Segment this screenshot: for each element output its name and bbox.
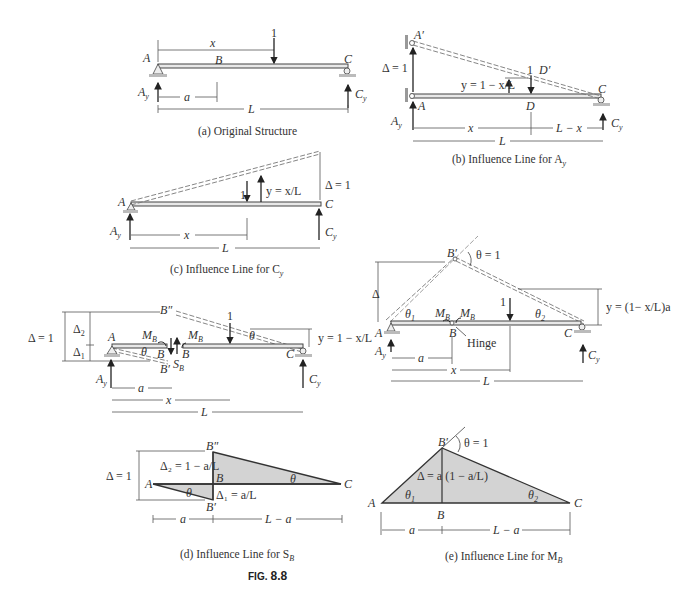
label-a: a xyxy=(418,351,424,365)
caption-a: (a) Original Structure xyxy=(198,125,297,138)
panel-d-influence-line-sb: Δ = 1 B″ Δ₂ = 1 − a/L A θ B Δ₁ = a/L θ C… xyxy=(106,439,353,563)
label-x: x xyxy=(450,363,457,377)
beam xyxy=(411,94,601,98)
label-x: x xyxy=(209,36,216,50)
label-y-expr: y = x/L xyxy=(266,184,301,198)
label-A: A xyxy=(144,477,153,491)
label-delta2-expr: Δ₂ = 1 − a/L xyxy=(160,459,219,473)
label-Ay: Ay xyxy=(374,344,386,360)
label-Ay: Ay xyxy=(95,372,107,388)
label-D: D xyxy=(525,99,535,113)
label-A: A xyxy=(142,51,151,65)
caption-c: (c) Influence Line for Cy xyxy=(170,263,284,278)
label-C: C xyxy=(598,82,607,96)
label-L: L xyxy=(498,134,506,148)
label-y-expr: y = 1 − x/L xyxy=(461,78,515,92)
label-A: A xyxy=(417,99,426,113)
figure-label: FIG.8.8 xyxy=(248,569,287,583)
label-A-prime: A′ xyxy=(413,28,424,42)
label-a: a xyxy=(138,381,144,395)
label-L-minus-a: L − a xyxy=(264,512,292,526)
caption-b: (b) Influence Line for Ay xyxy=(452,153,566,168)
label-C: C xyxy=(344,52,353,66)
label-A: A xyxy=(107,330,116,344)
label-B-prime: B′ xyxy=(438,435,448,449)
figure-8-8: x 1 A B C Ay Cy a L (a) Original Structu… xyxy=(0,0,694,592)
label-delta: Δ xyxy=(372,287,380,301)
panel-e-structure-moment: Δ B′ θ = 1 θ1 MB MB 1 θ2 y = (1− x/L)a A… xyxy=(372,236,671,388)
label-theta: θ = 1 xyxy=(464,436,489,450)
label-L: L xyxy=(247,102,255,116)
load-label: 1 xyxy=(271,26,277,40)
label-Ay: Ay xyxy=(390,114,402,130)
label-Cy: Cy xyxy=(309,372,321,388)
fixed-support-a-icon xyxy=(405,88,408,102)
label-delta: Δ = 1 xyxy=(106,469,132,483)
label-delta-expr: Δ = a (1 − a/L) xyxy=(417,469,488,483)
label-MB-left: MB xyxy=(141,328,157,344)
label-Cy: Cy xyxy=(355,87,367,103)
panel-b-influence-line-ay: A′ Δ = 1 y = 1 − x/L 1 D′ A D C Ay Cy x … xyxy=(382,28,623,168)
panel-a-original-structure: x 1 A B C Ay Cy a L (a) Original Structu… xyxy=(137,26,367,138)
beam xyxy=(391,321,581,325)
panel-e-influence-line-mb: B′ θ = 1 Δ = a (1 − a/L) A θ1 θ2 B C a L… xyxy=(367,427,583,565)
label-Cy: Cy xyxy=(325,225,337,241)
label-delta: Δ = 1 xyxy=(382,61,408,75)
load-label: 1 xyxy=(500,295,506,309)
label-B-prime: B′ xyxy=(447,246,457,260)
negative-region xyxy=(153,484,213,500)
label-Cy: Cy xyxy=(611,116,623,132)
label-C: C xyxy=(325,197,334,211)
label-C: C xyxy=(574,496,583,510)
label-a: a xyxy=(184,90,190,104)
label-A: A xyxy=(367,496,376,510)
label-C: C xyxy=(344,477,353,491)
label-L: L xyxy=(200,405,208,419)
label-MB-right: MB xyxy=(187,328,203,344)
label-L-minus-x: L − x xyxy=(555,121,583,135)
label-L: L xyxy=(221,241,229,255)
label-hinge: Hinge xyxy=(467,336,496,350)
label-A: A xyxy=(117,195,126,209)
label-B-prime: B′ xyxy=(160,362,170,376)
label-C: C xyxy=(286,347,295,361)
label-delta2: Δ2 xyxy=(73,322,85,338)
load-label: 1 xyxy=(227,309,233,323)
label-B: B xyxy=(437,508,445,522)
label-y-expr: y = 1 − x/L xyxy=(318,331,372,345)
label-theta-left: θ xyxy=(141,345,147,359)
label-B-double-prime: B″ xyxy=(160,303,173,317)
load-label: 1 xyxy=(240,188,246,202)
label-theta-right: θ xyxy=(249,329,255,343)
label-Ay: Ay xyxy=(109,224,121,240)
label-x: x xyxy=(183,228,190,242)
label-B-left: B xyxy=(157,347,165,361)
positive-region xyxy=(213,452,341,484)
label-L-minus-a: L − a xyxy=(492,523,520,537)
label-delta1-expr: Δ₁ = a/L xyxy=(216,488,257,502)
label-theta: θ = 1 xyxy=(476,248,501,262)
label-x: x xyxy=(165,393,172,407)
label-delta: Δ = 1 xyxy=(325,178,351,192)
label-B-right: B xyxy=(182,347,190,361)
label-y-expr: y = (1− x/L)a xyxy=(606,300,671,314)
panel-d-structure-shear: Δ = 1 Δ2 Δ1 B″ A MB MB θ B B SB B′ 1 θ C xyxy=(28,303,372,419)
label-x: x xyxy=(467,121,474,135)
label-Ay: Ay xyxy=(137,85,149,101)
caption-e: (e) Influence Line for MB xyxy=(445,550,562,565)
label-B-prime: B′ xyxy=(206,500,216,514)
beam xyxy=(158,64,348,68)
deflected-shape xyxy=(456,261,584,324)
label-A: A xyxy=(374,326,383,340)
label-theta1: θ1 xyxy=(405,307,415,323)
label-Cy: Cy xyxy=(588,348,600,364)
panel-c-influence-line-cy: A C Δ = 1 1 y = x/L Ay Cy x L (c) Influe… xyxy=(109,151,351,278)
label-L: L xyxy=(482,374,490,388)
roller-support-c-icon xyxy=(295,348,312,357)
caption-d: (d) Influence Line for SB xyxy=(180,548,294,563)
label-theta2: θ2 xyxy=(535,307,545,323)
label-B: B xyxy=(449,326,457,340)
figure-label-prefix: FIG.8.8 xyxy=(248,569,287,583)
label-a: a xyxy=(409,523,415,537)
label-B: B xyxy=(215,53,223,67)
